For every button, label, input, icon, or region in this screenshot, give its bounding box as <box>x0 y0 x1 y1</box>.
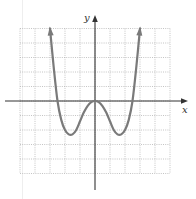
x-axis-label: x <box>182 104 188 115</box>
axes <box>5 15 188 190</box>
y-axis-label: y <box>84 12 90 23</box>
x-axis-arrow-icon <box>181 98 188 104</box>
y-axis-arrow-icon <box>92 15 98 22</box>
graph-canvas <box>0 0 196 199</box>
